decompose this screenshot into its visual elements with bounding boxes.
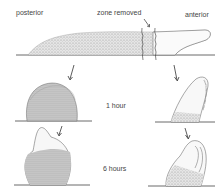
arrow-down-left-1: [68, 65, 74, 80]
anterior-fragment-6h: [148, 141, 215, 186]
anterior-fragment-1h: [155, 77, 215, 122]
posterior-fragment-6h: [14, 128, 90, 185]
label-posterior: posterior: [16, 9, 43, 16]
label-time-6-hours: 6 hours: [103, 165, 126, 172]
arrow-down-right-2: [185, 128, 190, 139]
arrow-down-right-1: [174, 65, 179, 81]
label-zone-removed: zone removed: [97, 9, 141, 16]
label-anterior: anterior: [185, 11, 209, 18]
label-time-1-hour: 1 hour: [106, 102, 126, 109]
arrow-down-left-2: [57, 126, 62, 136]
initial-organism: [16, 19, 215, 60]
zone-arrow-icon: [144, 19, 149, 26]
posterior-fragment-1h: [15, 83, 92, 121]
